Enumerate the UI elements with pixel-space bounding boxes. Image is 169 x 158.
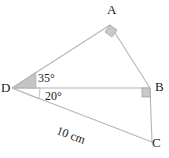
edge-ab	[110, 25, 150, 88]
vertex-label-b: B	[155, 80, 164, 93]
edge-da	[12, 25, 110, 88]
angle-label-bdc: 20°	[45, 90, 62, 102]
angle-label-adb: 35°	[38, 72, 55, 84]
vertex-label-d: D	[1, 81, 10, 94]
vertex-label-c: C	[152, 136, 161, 149]
vertex-label-a: A	[107, 3, 116, 16]
right-angle-marker-b	[142, 88, 150, 97]
